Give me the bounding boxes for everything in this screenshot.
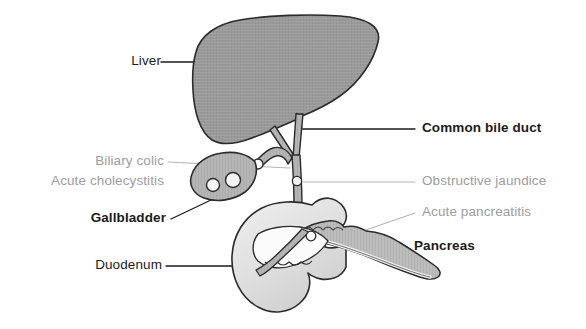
label-acute-pancreatitis: Acute pancreatitis	[422, 205, 531, 220]
gallstone-gallbladder-1	[207, 179, 220, 192]
cystic-duct	[253, 147, 292, 169]
liver-organ	[193, 15, 379, 144]
label-pancreas: Pancreas	[414, 239, 475, 254]
gallstone-ampulla	[306, 231, 316, 241]
gallbladder-organ	[191, 152, 257, 200]
label-liver: Liver	[113, 54, 161, 69]
anatomy-diagram: Liver Biliary colic Acute cholecystitis …	[0, 0, 586, 329]
gallstone-gallbladder-2	[226, 173, 241, 188]
label-acute-cholecystitis: Acute cholecystitis	[19, 174, 164, 189]
label-gallbladder: Gallbladder	[74, 211, 166, 226]
label-obstructive-jaundice: Obstructive jaundice	[422, 174, 546, 189]
gallbladder-shape	[191, 152, 257, 200]
liver-shape	[193, 15, 379, 144]
label-biliary-colic: Biliary colic	[31, 154, 164, 169]
label-common-bile-duct: Common bile duct	[422, 121, 541, 136]
label-duodenum: Duodenum	[82, 258, 162, 273]
gallstone-common-bile-duct	[292, 176, 301, 185]
